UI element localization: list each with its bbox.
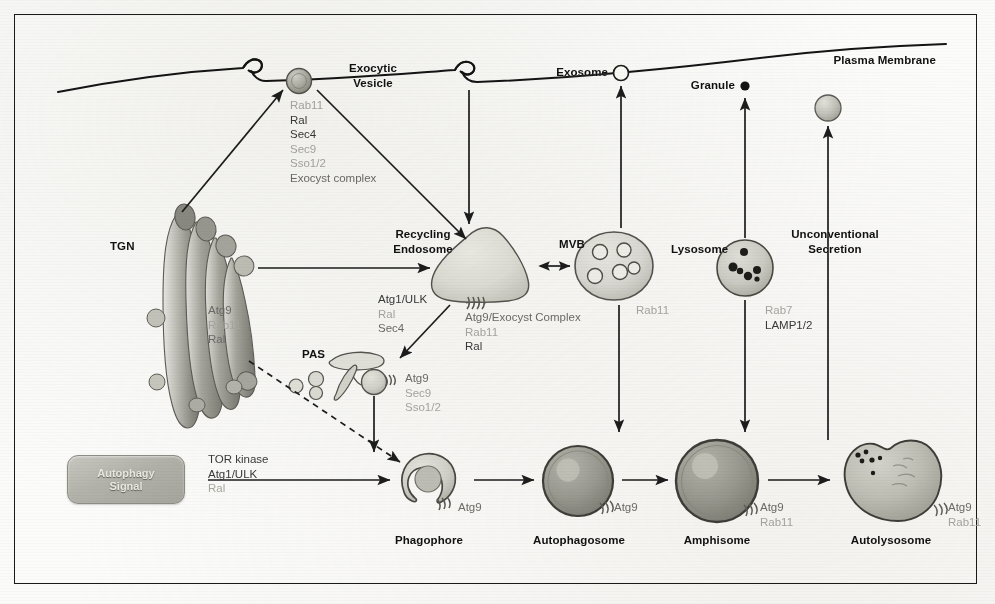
autophagy-signal-label: AutophagySignal bbox=[97, 467, 154, 493]
protein-entry: Ral bbox=[290, 113, 376, 128]
protein-entry: Ral bbox=[208, 481, 269, 496]
label-pas: PAS bbox=[302, 348, 325, 361]
exocytic-vesicle-icon bbox=[287, 69, 312, 94]
protein-entry: Rab11 bbox=[208, 318, 241, 333]
protein-list-lysosome: Rab7LAMP1/2 bbox=[765, 303, 812, 332]
protein-entry: Sso1/2 bbox=[405, 400, 441, 415]
protein-list-mvb: Rab11 bbox=[636, 303, 669, 318]
autophagosome-icon bbox=[543, 446, 613, 516]
protein-list-autophagosome: Atg9 bbox=[614, 500, 638, 515]
protein-list-pas-induction: Atg1/ULKRalSec4 bbox=[378, 292, 427, 336]
label-mvb: MVB bbox=[559, 238, 585, 251]
protein-entry: Rab11 bbox=[948, 515, 981, 530]
protein-entry: Atg9 bbox=[208, 303, 241, 318]
label-recycling-endosome-line2: Endosome bbox=[368, 243, 478, 256]
protein-entry: TOR kinase bbox=[208, 452, 269, 467]
protein-entry: Atg1/ULK bbox=[208, 467, 269, 482]
protein-entry: Sec4 bbox=[290, 127, 376, 142]
granule-icon bbox=[740, 81, 749, 90]
protein-list-phagophore: Atg9 bbox=[458, 500, 482, 515]
label-exosome: Exosome bbox=[498, 66, 608, 79]
label-tgn: TGN bbox=[110, 240, 135, 253]
label-exocytic-vesicle-line2: Vesicle bbox=[318, 77, 428, 90]
autolysosome-icon bbox=[845, 441, 948, 522]
protein-entry: Ral bbox=[208, 332, 241, 347]
label-autolysosome: Autolysosome bbox=[828, 534, 954, 547]
protein-entry: Rab11 bbox=[465, 325, 581, 340]
protein-entry: Sec9 bbox=[405, 386, 441, 401]
label-autophagosome: Autophagosome bbox=[508, 534, 650, 547]
protein-entry: Atg9 bbox=[614, 500, 638, 515]
protein-list-autophagy-signal: TOR kinaseAtg1/ULKRal bbox=[208, 452, 269, 496]
label-unconventional-secretion-line2: Secretion bbox=[770, 243, 900, 256]
label-lysosome: Lysosome bbox=[671, 243, 728, 256]
protein-entry: Rab11 bbox=[290, 98, 376, 113]
protein-entry: Sec4 bbox=[378, 321, 427, 336]
diagram-canvas bbox=[0, 0, 995, 604]
pathway-figure: Plasma Membrane Exocytic Vesicle TGN Rec… bbox=[0, 0, 995, 604]
protein-entry: Atg9 bbox=[760, 500, 793, 515]
label-phagophore: Phagophore bbox=[372, 534, 486, 547]
protein-entry: Exocyst complex bbox=[290, 171, 376, 186]
tgn-golgi-icon bbox=[147, 202, 259, 428]
protein-entry: Atg9 bbox=[948, 500, 981, 515]
mvb-icon bbox=[575, 232, 653, 300]
protein-list-recycling-endosome: Atg9/Exocyst ComplexRab11Ral bbox=[465, 310, 581, 354]
protein-entry: Rab11 bbox=[636, 303, 669, 318]
protein-list-exocytic-vesicle: Rab11RalSec4Sec9Sso1/2Exocyst complex bbox=[290, 98, 376, 185]
protein-entry: Ral bbox=[465, 339, 581, 354]
amphisome-icon bbox=[676, 440, 758, 522]
protein-list-tgn: Atg9Rab11Ral bbox=[208, 303, 241, 347]
protein-entry: Atg9 bbox=[405, 371, 441, 386]
label-granule: Granule bbox=[625, 79, 735, 92]
unconventional-vesicle-icon bbox=[815, 95, 841, 121]
label-amphisome: Amphisome bbox=[657, 534, 777, 547]
protein-list-amphisome: Atg9Rab11 bbox=[760, 500, 793, 529]
protein-entry: LAMP1/2 bbox=[765, 318, 812, 333]
protein-entry: Atg9 bbox=[458, 500, 482, 515]
protein-entry: Rab11 bbox=[760, 515, 793, 530]
label-plasma-membrane: Plasma Membrane bbox=[760, 54, 936, 67]
label-unconventional-secretion-line1: Unconventional bbox=[770, 228, 900, 241]
protein-entry: Ral bbox=[378, 307, 427, 322]
protein-entry: Sec9 bbox=[290, 142, 376, 157]
phagophore-icon bbox=[402, 454, 456, 510]
protein-entry: Rab7 bbox=[765, 303, 812, 318]
label-exocytic-vesicle-line1: Exocytic bbox=[318, 62, 428, 75]
protein-list-pas-site: Atg9Sec9Sso1/2 bbox=[405, 371, 441, 415]
protein-entry: Sso1/2 bbox=[290, 156, 376, 171]
protein-entry: Atg1/ULK bbox=[378, 292, 427, 307]
protein-entry: Atg9/Exocyst Complex bbox=[465, 310, 581, 325]
autophagy-signal-box[interactable]: AutophagySignal bbox=[67, 455, 185, 504]
label-recycling-endosome-line1: Recycling bbox=[368, 228, 478, 241]
protein-list-autolysosome: Atg9Rab11 bbox=[948, 500, 981, 529]
